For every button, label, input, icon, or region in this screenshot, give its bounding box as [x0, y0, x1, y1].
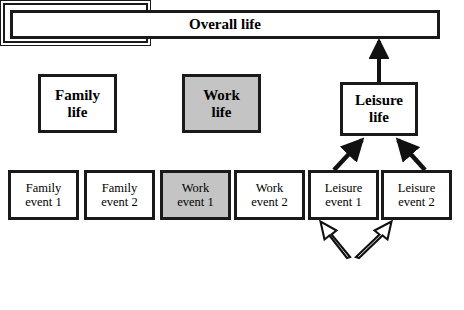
box-family-event-1-line2: event 1 [25, 195, 61, 209]
arrow-layer [0, 0, 464, 310]
box-leisure-life-line2: life [369, 109, 389, 126]
box-work-life-line2: life [212, 104, 232, 121]
box-overall-life[interactable]: Overall life [10, 10, 440, 39]
box-leisure-event-2-line1: Leisure [398, 181, 435, 195]
box-work-event-1-line2: event 1 [177, 195, 213, 209]
box-family-event-2[interactable]: Family event 2 [84, 170, 155, 220]
box-work-event-1[interactable]: Work event 1 [160, 170, 231, 220]
box-leisure-event-1-line2: event 1 [325, 195, 361, 209]
arrow-reevaluation-to-leisure-event-2 [356, 222, 392, 259]
box-work-event-2-line1: Work [256, 181, 283, 195]
diagram-canvas: Overall life Family life Work life Leisu… [0, 0, 464, 310]
box-work-event-2-line2: event 2 [251, 195, 287, 209]
box-family-life-line1: Family [55, 87, 100, 104]
box-leisure-event-1-line1: Leisure [325, 181, 362, 195]
box-leisure-event-2-line2: event 2 [398, 195, 434, 209]
box-leisure-life-line1: Leisure [355, 92, 403, 109]
box-leisure-life[interactable]: Leisure life [340, 82, 418, 136]
arrow-reevaluation-to-leisure-event-1 [321, 222, 351, 259]
box-family-event-1-line1: Family [26, 181, 61, 195]
arrow-leisure-event-2-to-leisure-life [398, 140, 425, 170]
box-family-life-line2: life [68, 104, 88, 121]
box-work-event-1-line1: Work [182, 181, 209, 195]
box-leisure-event-2[interactable]: Leisure event 2 [381, 170, 452, 220]
box-work-life[interactable]: Work life [182, 74, 261, 133]
box-work-event-2[interactable]: Work event 2 [234, 170, 305, 220]
box-family-life[interactable]: Family life [38, 74, 117, 133]
box-family-event-2-line2: event 2 [101, 195, 137, 209]
box-overall-life-label: Overall life [189, 16, 261, 33]
box-leisure-event-1[interactable]: Leisure event 1 [308, 170, 379, 220]
box-family-event-2-line1: Family [102, 181, 137, 195]
box-work-life-line1: Work [203, 87, 240, 104]
box-family-event-1[interactable]: Family event 1 [8, 170, 79, 220]
arrow-leisure-event-1-to-leisure-life [334, 140, 362, 170]
